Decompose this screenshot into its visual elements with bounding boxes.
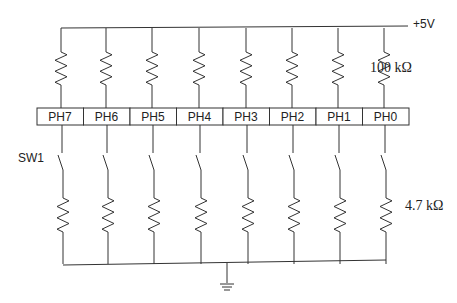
input-column-ph1	[332, 28, 346, 264]
switch-icon	[289, 155, 294, 170]
pullup-resistor-icon	[193, 52, 205, 85]
switch-icon	[335, 155, 340, 170]
pulldown-resistor-icon	[380, 198, 392, 232]
circuit-diagram: PH7PH6PH5PH4PH3PH2PH1PH0 +5V 100 kΩ 4.7 …	[0, 0, 457, 303]
pulldown-value-label: 4.7 kΩ	[405, 198, 443, 213]
switch-label: SW1	[18, 151, 44, 165]
port-label: PH3	[234, 110, 258, 124]
port-label: PH5	[141, 110, 165, 124]
pulldown-resistor-icon	[57, 198, 69, 232]
ground-bus	[63, 260, 386, 265]
pullup-value-label: 100 kΩ	[370, 60, 412, 75]
input-column-ph7	[55, 28, 69, 264]
supply-label: +5V	[413, 17, 435, 31]
input-column-ph6	[100, 28, 114, 264]
input-column-ph3	[240, 28, 254, 264]
ground-icon	[220, 284, 234, 290]
port-box-ph2: PH2	[270, 108, 317, 125]
port-label: PH1	[327, 110, 351, 124]
switch-icon	[103, 155, 108, 170]
port-label: PH7	[48, 110, 72, 124]
port-label: PH2	[281, 110, 305, 124]
pullup-resistor-icon	[146, 52, 158, 85]
pullup-resistor-icon	[286, 52, 298, 85]
pulldown-resistor-icon	[242, 198, 254, 232]
pullup-resistor-icon	[332, 52, 344, 85]
supply-rail	[61, 26, 408, 28]
pulldown-resistor-icon	[288, 198, 300, 232]
port-box-ph4: PH4	[177, 108, 224, 125]
pulldown-resistor-icon	[102, 198, 114, 232]
switch-icon	[196, 155, 201, 170]
input-column-ph5	[146, 28, 160, 264]
switch-icon	[149, 155, 154, 170]
port-label: PH6	[95, 110, 119, 124]
pullup-resistor-icon	[240, 52, 252, 85]
pulldown-resistor-icon	[334, 198, 346, 232]
port-box-ph1: PH1	[316, 108, 363, 125]
input-column-ph2	[286, 28, 300, 264]
pullup-resistor-icon	[55, 52, 67, 85]
switch-icon	[58, 155, 63, 170]
input-column-ph4	[193, 28, 207, 264]
port-box-ph6: PH6	[84, 108, 131, 125]
port-box-ph5: PH5	[130, 108, 177, 125]
switch-icon	[243, 155, 248, 170]
port-box-ph7: PH7	[37, 108, 84, 125]
port-label: PH4	[188, 110, 212, 124]
pulldown-resistor-icon	[195, 198, 207, 232]
pulldown-resistor-icon	[148, 198, 160, 232]
port-box-ph3: PH3	[223, 108, 270, 125]
port-box-ph0: PH0	[363, 108, 410, 125]
port-label: PH0	[374, 110, 398, 124]
switch-icon	[381, 155, 386, 170]
pullup-resistor-icon	[100, 52, 112, 85]
